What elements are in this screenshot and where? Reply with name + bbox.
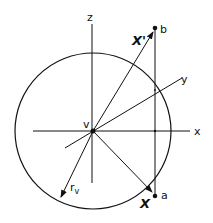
y-intersection-dot [154, 89, 156, 91]
point-b [153, 26, 158, 31]
y-axis [65, 78, 182, 148]
vector-x [93, 131, 152, 192]
radius-label: rv [70, 181, 80, 196]
center-point [91, 129, 96, 134]
point-a [153, 194, 158, 199]
point-b-label: b [160, 23, 167, 36]
sphere-diagram: z x y v b a X' X rv [0, 0, 213, 223]
center-label: v [83, 118, 90, 131]
x-intersection-dot [154, 130, 156, 132]
vector-x-label: X [139, 196, 151, 211]
vector-x-prime-label: X' [131, 33, 146, 48]
y-axis-label: y [181, 73, 188, 86]
x-axis-label: x [194, 125, 201, 138]
point-a-label: a [161, 189, 168, 202]
z-axis-label: z [87, 11, 93, 24]
